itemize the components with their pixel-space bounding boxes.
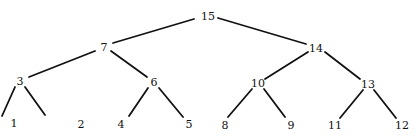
tree-node-2: 2 <box>78 118 85 131</box>
tree-node-15: 15 <box>201 10 215 23</box>
binary-tree-diagram: 157143610131245891112 <box>0 0 418 138</box>
tree-node-9: 9 <box>288 119 295 132</box>
tree-edge-14-10 <box>265 52 308 79</box>
tree-edge-6-4 <box>129 88 148 116</box>
tree-edge-10-8 <box>228 89 252 117</box>
tree-node-1: 1 <box>11 117 18 130</box>
tree-edge-13-11 <box>340 90 363 118</box>
tree-edge-14-13 <box>325 52 360 79</box>
tree-node-5: 5 <box>186 118 193 131</box>
tree-node-13: 13 <box>361 78 375 91</box>
tree-node-10: 10 <box>251 77 265 90</box>
tree-edge-3-2 <box>25 87 45 115</box>
tree-edge-6-5 <box>159 88 183 117</box>
tree-node-7: 7 <box>101 41 108 54</box>
tree-node-3: 3 <box>17 75 24 88</box>
tree-edges <box>2 18 396 118</box>
tree-edge-7-6 <box>111 51 147 77</box>
tree-node-12: 12 <box>395 119 409 132</box>
tree-node-4: 4 <box>118 118 125 131</box>
tree-edge-3-1 <box>2 87 15 116</box>
tree-edge-13-12 <box>374 90 396 118</box>
tree-edge-15-14 <box>218 18 306 44</box>
tree-edge-15-7 <box>113 19 194 43</box>
tree-node-11: 11 <box>328 119 342 132</box>
tree-canvas: 157143610131245891112 <box>0 0 418 138</box>
tree-node-6: 6 <box>151 76 158 89</box>
tree-edge-7-3 <box>29 51 95 77</box>
tree-node-14: 14 <box>309 42 323 55</box>
tree-node-8: 8 <box>222 119 229 132</box>
tree-edge-10-9 <box>264 89 285 117</box>
